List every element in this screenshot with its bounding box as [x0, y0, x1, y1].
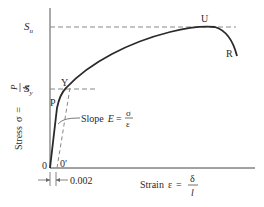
ultimate-label: Su: [24, 20, 34, 35]
arrowhead-left-icon: [46, 178, 50, 182]
stress-strain-diagram: 0.002 Su Sy Y P U R 0 0′ SlopeE= σ ε Str…: [0, 0, 264, 207]
arrowhead-right-icon: [56, 178, 60, 182]
x-axis-numerator: δ: [190, 173, 195, 184]
stress-strain-curve: [50, 27, 237, 168]
svg-text:Stressσ=: Stressσ=: [13, 107, 24, 150]
slope-leader: [58, 118, 80, 124]
point-rupture: R: [226, 48, 233, 59]
y-axis-denominator: A: [21, 85, 31, 92]
offset-value: 0.002: [70, 175, 93, 186]
point-origin: 0: [42, 160, 47, 171]
slope-label-text: SlopeE=: [81, 113, 122, 124]
point-ultimate: U: [201, 13, 209, 24]
slope-numerator: σ: [126, 108, 131, 118]
point-yield: Y: [61, 77, 68, 88]
slope-denominator: ε: [126, 119, 130, 129]
point-offset-origin: 0′: [60, 158, 67, 169]
point-proportional: P: [50, 97, 56, 108]
x-axis-label: Strainε=: [140, 179, 182, 190]
x-axis-denominator: l: [191, 187, 194, 198]
y-axis-numerator: P: [9, 84, 19, 91]
